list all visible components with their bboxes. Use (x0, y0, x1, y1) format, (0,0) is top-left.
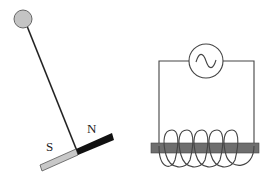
wire-right (223, 61, 254, 146)
pendulum-rod (27, 26, 77, 151)
wire-left (159, 61, 189, 146)
pendulum-magnet: S N (14, 10, 114, 171)
magnet-north-pole (76, 133, 114, 155)
diagram-canvas: S N (0, 0, 270, 183)
pivot-ball (14, 10, 32, 28)
south-label: S (46, 139, 53, 154)
iron-core (151, 143, 259, 153)
north-label: N (87, 121, 97, 136)
